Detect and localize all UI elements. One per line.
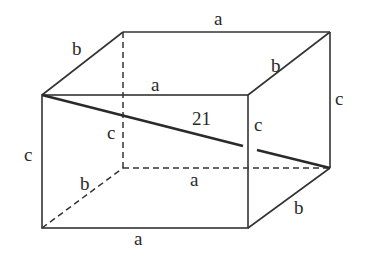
label-hidden-bottom-a: a <box>190 169 199 190</box>
label-top-back-a: a <box>214 8 223 29</box>
edge-top-right-b <box>248 32 330 95</box>
edge-labels: a b a b c 21 c c c b a b a <box>24 8 343 249</box>
label-top-right-b: b <box>271 55 281 76</box>
label-top-front-a: a <box>151 74 160 95</box>
space-diagonal <box>42 95 330 168</box>
visible-edges <box>42 32 330 228</box>
label-back-right-c: c <box>335 88 343 109</box>
label-bottom-right-b: b <box>294 197 304 218</box>
rectangular-prism-diagram: a b a b c 21 c c c b a b a <box>0 0 366 257</box>
front-face <box>42 95 248 228</box>
diagonal-segment-back <box>257 150 330 168</box>
label-diagonal: 21 <box>192 108 211 129</box>
label-hidden-c: c <box>107 122 115 143</box>
label-front-left-c: c <box>24 144 32 165</box>
label-hidden-bottom-b: b <box>80 173 90 194</box>
label-bottom-front-a: a <box>134 228 143 249</box>
edge-top-left-b <box>42 32 123 95</box>
edge-bottom-right-b <box>248 168 330 228</box>
label-top-left-b: b <box>72 38 82 59</box>
label-front-right-c: c <box>254 114 262 135</box>
diagonal-segment-front <box>42 95 243 146</box>
